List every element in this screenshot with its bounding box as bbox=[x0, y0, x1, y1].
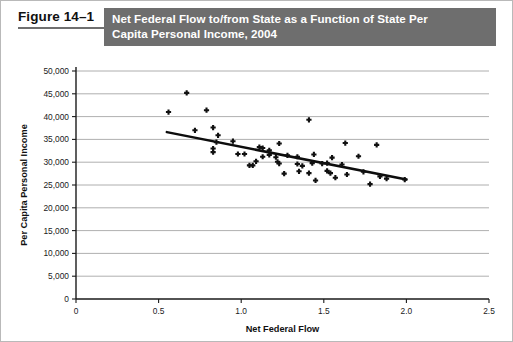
x-tick-label: 2.0 bbox=[401, 306, 413, 316]
y-tick-label: 35,000 bbox=[43, 134, 69, 144]
data-point bbox=[356, 154, 361, 159]
data-point bbox=[343, 140, 348, 145]
data-point bbox=[253, 159, 258, 164]
data-point bbox=[300, 163, 305, 168]
y-tick-label: 40,000 bbox=[43, 112, 69, 122]
y-tick-label: 15,000 bbox=[43, 226, 69, 236]
figure-title-line-2: Capita Personal Income, 2004 bbox=[112, 27, 277, 40]
data-point bbox=[333, 175, 338, 180]
figure-label: Figure 14–1 bbox=[18, 9, 104, 25]
figure-label-block: Figure 14–1 bbox=[18, 9, 104, 29]
data-point bbox=[184, 90, 189, 95]
data-point bbox=[329, 155, 334, 160]
data-point bbox=[260, 154, 265, 159]
x-tick-label: 0 bbox=[74, 306, 79, 316]
x-axis-tick-labels: 00.51.01.52.02.5 bbox=[74, 306, 495, 316]
data-point bbox=[242, 151, 247, 156]
y-tick-label: 5,000 bbox=[48, 271, 69, 281]
data-point bbox=[306, 117, 311, 122]
data-point bbox=[367, 181, 372, 186]
data-point bbox=[211, 150, 216, 155]
y-tick-label: 20,000 bbox=[43, 203, 69, 213]
y-tick-label: 25,000 bbox=[43, 180, 69, 190]
figure-label-rule bbox=[18, 27, 104, 29]
data-point bbox=[313, 178, 318, 183]
data-point bbox=[204, 108, 209, 113]
y-axis-title: Per Capita Personal Income bbox=[19, 124, 29, 246]
figure-title-bar: Net Federal Flow to/from State as a Func… bbox=[104, 8, 496, 46]
data-point bbox=[235, 151, 240, 156]
data-point bbox=[311, 152, 316, 157]
data-point bbox=[344, 172, 349, 177]
y-tick-label: 0 bbox=[64, 294, 69, 304]
scatter-plot: 05,00010,00015,00020,00025,00030,00035,0… bbox=[1, 53, 512, 341]
data-point bbox=[250, 163, 255, 168]
chart-area: 05,00010,00015,00020,00025,00030,00035,0… bbox=[1, 53, 512, 341]
figure-title-line-1: Net Federal Flow to/from State as a Func… bbox=[112, 12, 428, 25]
data-point bbox=[296, 169, 301, 174]
axis-ticks bbox=[72, 71, 489, 303]
data-point bbox=[215, 133, 220, 138]
data-point bbox=[273, 155, 278, 160]
data-point bbox=[306, 171, 311, 176]
data-point bbox=[282, 171, 287, 176]
data-point bbox=[211, 125, 216, 130]
x-tick-label: 2.5 bbox=[483, 306, 495, 316]
data-point bbox=[277, 141, 282, 146]
y-tick-label: 45,000 bbox=[43, 89, 69, 99]
axis-lines bbox=[76, 67, 489, 299]
figure-header: Figure 14–1 Net Federal Flow to/from Sta… bbox=[1, 1, 513, 53]
x-axis-title: Net Federal Flow bbox=[246, 324, 320, 334]
y-axis-tick-labels: 05,00010,00015,00020,00025,00030,00035,0… bbox=[43, 66, 69, 304]
y-tick-label: 50,000 bbox=[43, 66, 69, 76]
x-tick-label: 1.0 bbox=[235, 306, 247, 316]
y-tick-label: 10,000 bbox=[43, 248, 69, 258]
y-tick-label: 30,000 bbox=[43, 157, 69, 167]
figure-title: Net Federal Flow to/from State as a Func… bbox=[112, 12, 488, 41]
figure-container: Figure 14–1 Net Federal Flow to/from Sta… bbox=[0, 0, 513, 342]
data-point bbox=[166, 109, 171, 114]
data-point bbox=[192, 128, 197, 133]
x-tick-label: 1.5 bbox=[318, 306, 330, 316]
x-tick-label: 0.5 bbox=[153, 306, 165, 316]
data-point bbox=[374, 142, 379, 147]
